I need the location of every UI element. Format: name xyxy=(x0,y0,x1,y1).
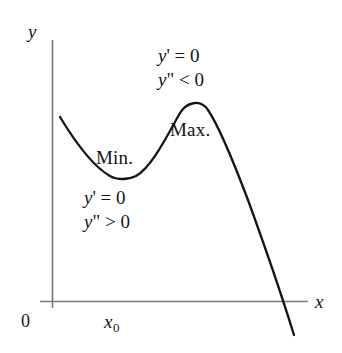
minimum-first-derivative-expression: ' = 0 xyxy=(92,187,125,208)
y-axis-label: y xyxy=(28,22,36,41)
calculus-curve-figure: y x 0 x0 Min. Max. y' = 0 y" < 0 y' = 0 … xyxy=(0,0,342,353)
x0-base: x xyxy=(104,311,112,332)
maximum-label: Max. xyxy=(170,120,210,139)
x-axis-label: x xyxy=(315,292,323,311)
minimum-first-derivative: y' = 0 xyxy=(84,186,130,210)
maximum-second-derivative: y" < 0 xyxy=(158,68,204,92)
maximum-derivative-conditions: y' = 0 y" < 0 xyxy=(158,44,204,93)
minimum-derivative-conditions: y' = 0 y" > 0 xyxy=(84,186,130,235)
minimum-second-derivative-expression: " > 0 xyxy=(92,211,129,232)
maximum-first-derivative: y' = 0 xyxy=(158,44,204,68)
origin-label: 0 xyxy=(21,312,30,330)
minimum-label: Min. xyxy=(96,148,133,167)
maximum-first-derivative-expression: ' = 0 xyxy=(166,45,199,66)
minimum-second-derivative: y" > 0 xyxy=(84,210,130,234)
maximum-second-derivative-expression: " < 0 xyxy=(166,69,203,90)
x0-tick-label: x0 xyxy=(104,312,119,334)
x0-subscript: 0 xyxy=(113,320,120,335)
